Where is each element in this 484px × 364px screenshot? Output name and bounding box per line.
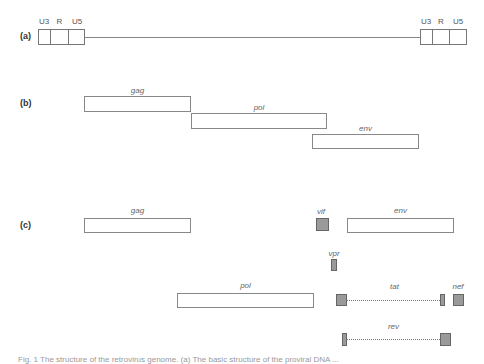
orf-tat-exon2 (440, 294, 445, 306)
figure-caption: Fig. 1 The structure of the retrovirus g… (18, 355, 339, 364)
ltr-right-u5 (450, 30, 466, 44)
ltr-right-r-label: R (432, 17, 450, 26)
orf-env-b (312, 134, 419, 149)
gene-label-gag-c: gag (84, 206, 191, 215)
panel-b-label: (b) (20, 98, 32, 108)
orf-pol-b (191, 113, 327, 129)
orf-nef (453, 294, 464, 306)
ltr-left-u5 (69, 30, 84, 44)
gene-label-env-c: env (347, 206, 454, 215)
panel-a-label: (a) (20, 31, 31, 41)
gene-label-vpr: vpr (326, 249, 342, 258)
gene-label-rev: rev (345, 322, 442, 331)
ltr-left-u5-label: U5 (69, 17, 85, 26)
orf-gag-b (84, 96, 191, 112)
ltr-right-u5-label: U5 (450, 17, 466, 26)
orf-pol-c (177, 293, 314, 308)
gene-label-env-b: env (312, 124, 419, 133)
gene-label-pol-c: pol (177, 281, 314, 290)
tat-splice-line (347, 300, 440, 301)
ltr-right-r (433, 30, 450, 44)
panel-c-label: (c) (20, 220, 31, 230)
ltr-left (38, 29, 85, 45)
gene-label-vif: vif (312, 207, 330, 216)
orf-env-c (347, 218, 454, 233)
provirus-line (85, 37, 420, 38)
rev-splice-line (347, 339, 440, 340)
gene-label-tat: tat (347, 282, 442, 291)
ltr-left-u3 (39, 30, 51, 44)
ltr-left-r (51, 30, 69, 44)
ltr-right-u3 (421, 30, 433, 44)
gene-label-nef: nef (450, 282, 466, 291)
gene-label-gag-b: gag (84, 86, 191, 95)
orf-vif (316, 218, 329, 231)
orf-gag-c (84, 218, 191, 233)
ltr-right (420, 29, 467, 45)
orf-tat-exon1 (336, 294, 347, 306)
ltr-left-r-label: R (50, 17, 69, 26)
orf-vpr (331, 259, 337, 271)
ltr-right-u3-label: U3 (420, 17, 432, 26)
gene-label-pol-b: pol (191, 103, 327, 112)
ltr-left-u3-label: U3 (38, 17, 50, 26)
orf-rev-exon2 (440, 333, 451, 346)
